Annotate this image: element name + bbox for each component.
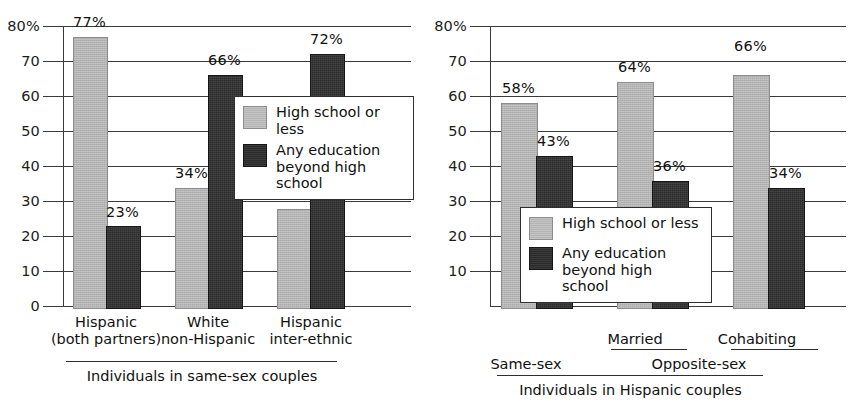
bar-hispanic-both-partners-any-education-beyond — [106, 226, 141, 309]
category-line-1: Hispanic — [75, 314, 137, 330]
category-label-hispanic-both-partners: Hispanic (both partners) — [46, 314, 166, 347]
legend-label-line-2: beyond high school — [276, 159, 366, 192]
legend-item-high-school-or-less[interactable]: High school or less — [529, 215, 702, 240]
category-label-same-sex: Same-sex — [466, 356, 586, 373]
category-line-1: Hispanic — [280, 314, 342, 330]
value-label-66: 66% — [718, 38, 783, 54]
value-label-36: 36% — [637, 158, 702, 174]
bar-cohabiting-high-school-or-less — [733, 75, 770, 309]
value-label-64: 64% — [602, 59, 667, 75]
bar-hispanic-both-partners-high-school-or-less — [73, 37, 108, 309]
bar-white-non-hispanic-high-school-or-less — [175, 188, 210, 309]
legend-swatch-light-icon — [243, 106, 267, 129]
category-label-married: Married — [575, 331, 695, 348]
legend-label-line-1: Any education — [276, 142, 380, 158]
legend-label-line-2: beyond high school — [562, 262, 652, 295]
legend-label-line-1: Any education — [562, 245, 666, 261]
value-label-77: 77% — [57, 14, 122, 30]
value-label-58: 58% — [486, 80, 551, 96]
underline-cohabiting — [731, 349, 818, 350]
legend-label-high-school-or-less: High school or less — [276, 104, 404, 137]
group-label-individuals-in-same-sex-couples: Individuals in same-sex couples — [56, 368, 348, 384]
category-line-2: non-Hispanic — [161, 331, 255, 347]
legend-label-high-school-or-less: High school or less — [562, 215, 699, 232]
dual-bar-chart-figure: 80% 70 60 50 40 30 20 10 0 — [0, 0, 851, 410]
legend-label-any-education-beyond: Any educationbeyond high school — [562, 245, 702, 295]
category-line-2: inter-ethnic — [269, 331, 352, 347]
group-bracket-rule-hispanic-couples — [497, 375, 763, 376]
underline-married — [611, 349, 687, 350]
legend: High school or less Any educationbeyond … — [234, 96, 414, 200]
legend-label-any-education-beyond: Any educationbeyond high school — [276, 142, 404, 192]
legend-item-high-school-or-less[interactable]: High school or less — [243, 104, 404, 137]
group-label-opposite-sex: Opposite-sex — [629, 356, 769, 372]
legend-swatch-dark-icon — [243, 144, 267, 167]
value-label-72: 72% — [294, 31, 359, 47]
legend-swatch-dark-icon — [529, 247, 553, 270]
legend-swatch-light-icon — [529, 217, 553, 240]
chart-panel-same-sex-couples: 80% 70 60 50 40 30 20 10 0 — [0, 0, 425, 410]
value-label-34: 34% — [159, 165, 224, 181]
group-label-individuals-in-hispanic-couples: Individuals in Hispanic couples — [487, 382, 774, 398]
category-label-cohabiting: Cohabiting — [693, 331, 821, 348]
chart-panel-hispanic-couples: 80% 70 60 50 40 30 20 10 — [425, 0, 851, 410]
value-label-34: 34% — [753, 165, 818, 181]
legend-item-any-education-beyond[interactable]: Any educationbeyond high school — [529, 245, 702, 295]
bar-hispanic-inter-ethnic-high-school-or-less — [277, 209, 312, 309]
value-label-23: 23% — [90, 204, 155, 220]
value-label-66: 66% — [192, 52, 257, 68]
category-line-2: (both partners) — [51, 331, 161, 347]
category-line-1: White — [187, 314, 229, 330]
group-bracket-rule-same-sex-couples — [66, 361, 337, 362]
legend: High school or less Any educationbeyond … — [520, 207, 712, 303]
bar-cohabiting-any-education-beyond — [768, 188, 805, 309]
category-label-hispanic-inter-ethnic: Hispanic inter-ethnic — [253, 314, 369, 347]
legend-item-any-education-beyond[interactable]: Any educationbeyond high school — [243, 142, 404, 192]
category-label-white-non-hispanic: White non-Hispanic — [150, 314, 266, 347]
value-label-43: 43% — [521, 133, 586, 149]
